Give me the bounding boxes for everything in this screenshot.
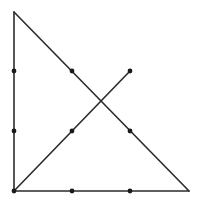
dot-4 bbox=[12, 129, 17, 134]
dot-3 bbox=[128, 69, 133, 74]
dot-6 bbox=[128, 129, 133, 134]
dot-2 bbox=[70, 69, 75, 74]
nine-dots-diagram bbox=[0, 0, 198, 202]
connecting-lines bbox=[14, 12, 189, 191]
dot-9 bbox=[128, 189, 133, 194]
dot-7 bbox=[12, 189, 17, 194]
dot-8 bbox=[70, 189, 75, 194]
dot-1 bbox=[12, 69, 17, 74]
dot-5 bbox=[70, 129, 75, 134]
